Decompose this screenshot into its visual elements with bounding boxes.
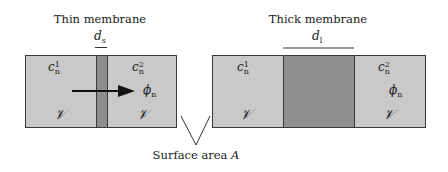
thick-membrane: [283, 56, 355, 127]
thick-flux-label: ϕn: [389, 83, 402, 99]
thin-left-volume: 𝒱: [54, 106, 66, 123]
surface-area-caption: Surface area A: [153, 148, 240, 162]
thick-membrane-title: Thick membrane: [269, 12, 367, 26]
thick-left-concentration: c1n: [237, 60, 249, 75]
thin-right-volume: 𝒱: [137, 106, 149, 123]
thick-thickness-label: dl: [312, 29, 322, 45]
thick-right-volume: 𝒱: [383, 106, 395, 123]
thin-flux-label: ϕn: [143, 83, 156, 99]
thick-left-volume: 𝒱: [240, 106, 252, 123]
thick-right-concentration: c2n: [378, 60, 390, 75]
